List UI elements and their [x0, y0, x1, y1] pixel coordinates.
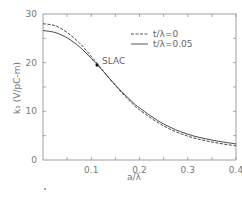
annotations: SLAC	[95, 56, 125, 67]
y-axis-label: k₁ (V/pC-m)	[12, 62, 22, 114]
figure-id-left: ·	[10, 180, 11, 185]
legend-label: t/λ=0.05	[153, 39, 192, 49]
chart: 0.10.20.30.40102030 SLAC t/λ=0t/λ=0.05 a…	[0, 0, 242, 199]
y-tick-label: 20	[26, 58, 38, 68]
slac-label: SLAC	[102, 56, 125, 66]
x-axis-label: a/λ	[127, 172, 142, 182]
x-tick-label: 0.1	[84, 165, 98, 175]
y-tick-label: 10	[26, 106, 38, 116]
series-solid	[43, 31, 236, 144]
series-dashed	[43, 24, 236, 146]
y-tick-label: 30	[26, 9, 38, 19]
slac-marker	[95, 64, 98, 67]
y-tick-label: 0	[31, 155, 37, 165]
legend-label: t/λ=0	[153, 29, 178, 39]
x-tick-label: 0.4	[229, 165, 242, 175]
stray-dot	[44, 188, 46, 190]
legend: t/λ=0t/λ=0.05	[131, 29, 192, 49]
x-tick-label: 0.3	[181, 165, 195, 175]
data-curves	[43, 24, 236, 146]
